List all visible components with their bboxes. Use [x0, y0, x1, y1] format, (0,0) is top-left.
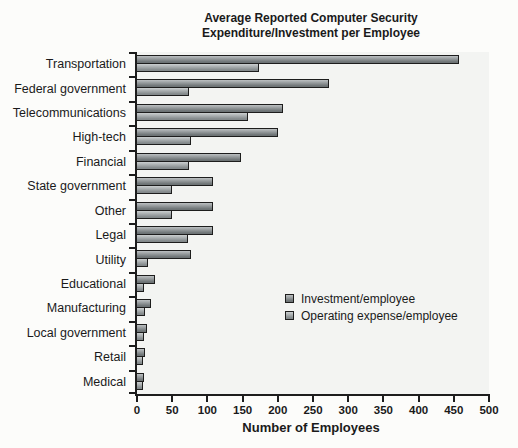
x-axis-tick — [418, 394, 420, 402]
category-label: Medical — [0, 369, 126, 393]
bar-operating — [137, 234, 188, 243]
x-axis-tick — [171, 394, 173, 402]
y-axis-tick — [129, 76, 135, 78]
bar-operating — [137, 258, 148, 267]
category-label: Manufacturing — [0, 296, 126, 320]
plot-area: Investment/employee Operating expense/em… — [135, 52, 489, 396]
category-row — [137, 223, 489, 247]
category-label: State government — [0, 174, 126, 198]
y-axis-tick — [129, 247, 135, 249]
y-axis-tick — [129, 223, 135, 225]
y-axis-tick — [129, 392, 135, 394]
y-axis-tick — [129, 296, 135, 298]
category-row — [137, 150, 489, 174]
category-label: Financial — [0, 150, 126, 174]
x-axis-title: Number of Employees — [135, 420, 487, 435]
category-row — [137, 247, 489, 271]
bar-operating — [137, 63, 259, 72]
x-axis-tick — [382, 394, 384, 402]
category-row — [137, 76, 489, 100]
x-axis-tick — [242, 394, 244, 402]
category-row — [137, 272, 489, 296]
x-tick-label: 450 — [436, 404, 472, 416]
category-row — [137, 199, 489, 223]
y-axis-tick — [129, 174, 135, 176]
y-axis-tick — [129, 272, 135, 274]
x-tick-label: 250 — [295, 404, 331, 416]
bar-operating — [137, 283, 144, 292]
y-axis-tick — [129, 345, 135, 347]
y-axis-tick — [129, 150, 135, 152]
bar-operating — [137, 112, 248, 121]
category-label: High-tech — [0, 125, 126, 149]
y-axis-tick — [129, 101, 135, 103]
category-row — [137, 345, 489, 369]
chart-title-line2: Expenditure/Investment per Employee — [135, 26, 487, 41]
bar-operating — [137, 161, 189, 170]
category-row — [137, 101, 489, 125]
x-axis-tick — [136, 394, 138, 402]
bar-operating — [137, 356, 143, 365]
category-label: Other — [0, 199, 126, 223]
category-label: Retail — [0, 345, 126, 369]
y-axis-tick — [129, 370, 135, 372]
y-axis-tick — [129, 52, 135, 54]
x-axis-tick — [206, 394, 208, 402]
y-axis-tick — [129, 199, 135, 201]
category-row — [137, 52, 489, 76]
category-label: Federal government — [0, 76, 126, 100]
bar-operating — [137, 210, 172, 219]
bar-operating — [137, 307, 145, 316]
category-label: Local government — [0, 321, 126, 345]
x-tick-label: 100 — [189, 404, 225, 416]
category-label: Transportation — [0, 52, 126, 76]
category-label: Educational — [0, 272, 126, 296]
x-axis-tick — [347, 394, 349, 402]
chart-figure: Average Reported Computer Security Expen… — [0, 0, 518, 448]
bar-operating — [137, 87, 189, 96]
x-tick-label: 350 — [365, 404, 401, 416]
y-axis-tick — [129, 125, 135, 127]
x-axis-tick — [312, 394, 314, 402]
category-row — [137, 296, 489, 320]
category-row — [137, 174, 489, 198]
chart-title-line1: Average Reported Computer Security — [135, 11, 487, 26]
category-label: Telecommunications — [0, 101, 126, 125]
category-label: Legal — [0, 223, 126, 247]
bar-operating — [137, 381, 143, 390]
bar-operating — [137, 136, 191, 145]
bar-operating — [137, 332, 144, 341]
x-axis-tick — [277, 394, 279, 402]
x-tick-label: 0 — [119, 404, 155, 416]
category-row — [137, 321, 489, 345]
x-tick-label: 400 — [401, 404, 437, 416]
category-row — [137, 125, 489, 149]
x-tick-label: 50 — [154, 404, 190, 416]
category-labels: TransportationFederal governmentTelecomm… — [0, 52, 126, 394]
chart-title: Average Reported Computer Security Expen… — [135, 11, 487, 41]
bar-operating — [137, 185, 172, 194]
category-label: Utility — [0, 247, 126, 271]
category-row — [137, 370, 489, 394]
y-axis-tick — [129, 321, 135, 323]
x-tick-label: 300 — [330, 404, 366, 416]
x-tick-label: 200 — [260, 404, 296, 416]
x-axis-tick — [453, 394, 455, 402]
x-axis-tick — [488, 394, 490, 402]
x-tick-label: 150 — [225, 404, 261, 416]
x-tick-label: 500 — [471, 404, 507, 416]
